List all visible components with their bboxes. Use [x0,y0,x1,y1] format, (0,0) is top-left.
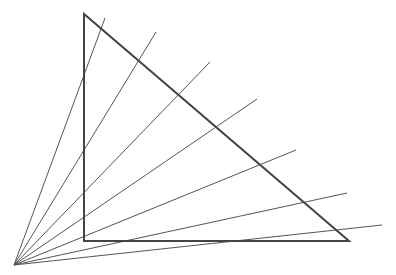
ray-3 [14,62,210,265]
ray-6 [14,193,347,265]
right-triangle [84,14,349,241]
radiating-rays [14,18,382,265]
diagram-canvas [0,0,396,275]
ray-7 [14,225,382,265]
ray-5 [14,150,296,265]
ray-1 [14,18,105,265]
